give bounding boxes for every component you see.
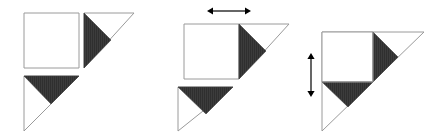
square-piece [24, 13, 79, 68]
panel-complete-assembly [311, 32, 424, 131]
panel-separated-pieces [24, 13, 134, 131]
square-piece [322, 32, 373, 82]
square-piece [184, 24, 239, 79]
panel-partial-assembly [178, 11, 289, 131]
geometric-dissection-diagram: Separated pieces Partial assembly Comple… [0, 0, 432, 139]
diagram-canvas [0, 0, 432, 139]
